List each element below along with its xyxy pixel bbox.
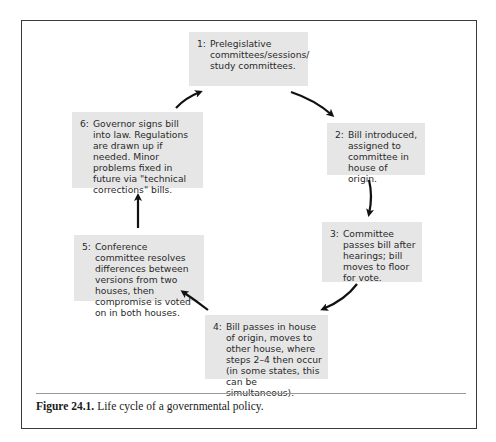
arrow-2-to-3 (369, 180, 371, 214)
caption-divider (36, 393, 466, 394)
arrow-1-to-2 (291, 92, 332, 115)
caption-text: Life cycle of a governmental policy. (94, 400, 263, 412)
flow-arrows (0, 0, 496, 442)
caption-label: Figure 24.1. (36, 400, 94, 412)
arrow-4-to-5 (183, 292, 208, 310)
arrow-6-to-1 (176, 92, 200, 108)
figure-caption: Figure 24.1. Life cycle of a governmenta… (36, 400, 264, 412)
arrow-3-to-4 (323, 284, 357, 309)
